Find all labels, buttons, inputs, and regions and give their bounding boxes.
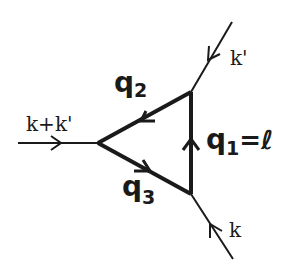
label-q1-main: q [206,123,226,156]
label-q1: q1=ℓ [206,123,273,159]
internal-line-q1 [183,92,199,194]
label-q2-main: q [114,66,134,99]
label-k-prime: k' [230,46,248,70]
feynman-diagram: k+k' k' k q2 q3 q1=ℓ [0,0,289,276]
external-line-k [191,194,233,259]
label-q1-suffix: =ℓ [239,125,273,155]
label-k: k [229,218,242,242]
external-line-k-prime [191,22,232,92]
label-q2-sub: 2 [134,79,147,101]
label-q2: q2 [114,66,147,101]
label-q3-main: q [122,170,142,203]
label-q3: q3 [122,170,155,208]
label-q3-sub: 3 [142,186,155,208]
external-line-k-plus-k-prime [18,136,98,150]
label-q1-sub: 1 [226,137,239,159]
label-k-plus-k-prime: k+k' [26,112,73,136]
